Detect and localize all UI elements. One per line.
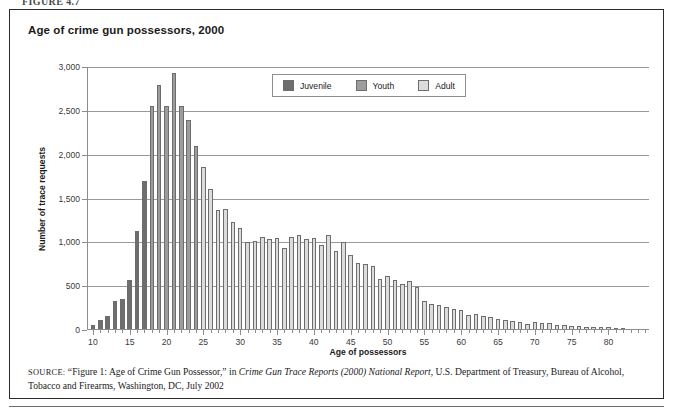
x-tick-mark-minor <box>270 330 271 333</box>
x-tick-mark-minor <box>410 330 411 333</box>
x-tick-mark-major <box>498 330 499 335</box>
x-tick-mark-minor <box>446 330 447 333</box>
x-tick-label: 60 <box>456 337 466 347</box>
x-tick-mark-minor <box>513 330 514 333</box>
x-tick-label: 50 <box>383 337 393 347</box>
x-tick-mark-minor <box>380 330 381 333</box>
x-tick-mark-minor <box>491 330 492 333</box>
y-tick-label: 3,000 <box>58 62 80 72</box>
x-tick-mark-minor <box>557 330 558 333</box>
y-axis-title: Number of trace requests <box>36 67 48 330</box>
x-tick-mark-major <box>351 330 352 335</box>
x-tick-mark-minor <box>469 330 470 333</box>
y-tick-mark <box>82 286 87 287</box>
x-tick-mark-minor <box>365 330 366 333</box>
y-tick-mark <box>82 111 87 112</box>
x-tick-mark-minor <box>248 330 249 333</box>
x-tick-mark-minor <box>373 330 374 333</box>
y-tick-label: 500 <box>66 281 80 291</box>
y-tick-label: 2,500 <box>58 106 80 116</box>
legend-item: Youth <box>356 80 395 91</box>
x-tick-mark-minor <box>196 330 197 333</box>
x-tick-mark-minor <box>137 330 138 333</box>
x-tick-mark-minor <box>454 330 455 333</box>
x-tick-mark-minor <box>542 330 543 333</box>
x-tick-mark-minor <box>233 330 234 333</box>
x-tick-label: 35 <box>272 337 282 347</box>
y-tick-mark <box>82 155 87 156</box>
x-tick-mark-minor <box>505 330 506 333</box>
x-tick-mark-major <box>167 330 168 335</box>
x-tick-mark-major <box>608 330 609 335</box>
source-label: SOURCE: <box>28 368 65 377</box>
x-tick-mark-minor <box>218 330 219 333</box>
y-axis-line <box>87 67 88 330</box>
x-tick-mark-minor <box>483 330 484 333</box>
legend-swatch-icon <box>283 80 294 91</box>
y-tick-label: 2,000 <box>58 150 80 160</box>
x-tick-label: 10 <box>88 337 98 347</box>
figure-box: Age of crime gun possessors, 2000 Number… <box>9 9 664 399</box>
x-tick-mark-minor <box>527 330 528 333</box>
x-tick-label: 70 <box>530 337 540 347</box>
x-tick-mark-major <box>388 330 389 335</box>
x-tick-mark-minor <box>550 330 551 333</box>
x-tick-mark-minor <box>211 330 212 333</box>
legend-label: Juvenile <box>300 81 332 91</box>
x-tick-mark-minor <box>321 330 322 333</box>
x-tick-label: 45 <box>346 337 356 347</box>
x-tick-mark-minor <box>520 330 521 333</box>
x-tick-mark-minor <box>586 330 587 333</box>
x-tick-mark-minor <box>299 330 300 333</box>
x-tick-mark-minor <box>358 330 359 333</box>
x-tick-label: 55 <box>420 337 430 347</box>
x-tick-label: 15 <box>125 337 135 347</box>
x-tick-mark-minor <box>292 330 293 333</box>
figure-caption-strip: FIGURE 4.7 <box>22 0 80 6</box>
x-tick-mark-minor <box>122 330 123 333</box>
x-tick-mark-minor <box>564 330 565 333</box>
x-tick-mark-minor <box>336 330 337 333</box>
x-tick-mark-minor <box>476 330 477 333</box>
legend-label: Youth <box>373 81 395 91</box>
plot-area: 05001,0001,5002,0002,5003,000 1015202530… <box>87 67 649 330</box>
x-tick-mark-minor <box>159 330 160 333</box>
x-tick-mark-minor <box>402 330 403 333</box>
y-tick-label: 1,500 <box>58 194 80 204</box>
x-tick-mark-major <box>93 330 94 335</box>
x-tick-mark-minor <box>623 330 624 333</box>
x-tick-mark-major <box>461 330 462 335</box>
source-text-italic: Crime Gun Trace Reports (2000) National … <box>239 366 431 377</box>
y-tick-mark <box>82 242 87 243</box>
x-tick-mark-minor <box>189 330 190 333</box>
x-tick-label: 80 <box>604 337 614 347</box>
x-tick-mark-minor <box>262 330 263 333</box>
x-tick-mark-major <box>535 330 536 335</box>
x-axis-title: Age of possessors <box>87 347 649 357</box>
x-tick-mark-minor <box>181 330 182 333</box>
x-tick-label: 20 <box>162 337 172 347</box>
x-tick-mark-minor <box>616 330 617 333</box>
x-tick-mark-minor <box>343 330 344 333</box>
legend-item: Adult <box>418 80 455 91</box>
legend-item: Juvenile <box>283 80 332 91</box>
x-tick-label: 30 <box>235 337 245 347</box>
x-tick-mark-major <box>424 330 425 335</box>
legend-swatch-icon <box>356 80 367 91</box>
x-tick-mark-major <box>314 330 315 335</box>
x-tick-label: 65 <box>493 337 503 347</box>
source-note: SOURCE: “Figure 1: Age of Crime Gun Poss… <box>28 365 649 392</box>
x-tick-mark-minor <box>174 330 175 333</box>
x-tick-mark-minor <box>432 330 433 333</box>
x-tick-mark-minor <box>594 330 595 333</box>
x-tick-mark-minor <box>255 330 256 333</box>
axis-layer <box>87 67 649 330</box>
y-tick-label: 0 <box>75 325 80 335</box>
y-axis-title-text: Number of trace requests <box>37 146 47 250</box>
legend-label: Adult <box>435 81 455 91</box>
x-tick-mark-minor <box>579 330 580 333</box>
y-tick-mark <box>82 330 87 331</box>
source-text-part1: “Figure 1: Age of Crime Gun Possessor,” … <box>65 366 238 377</box>
chart-title: Age of crime gun possessors, 2000 <box>28 24 224 36</box>
x-tick-label: 75 <box>567 337 577 347</box>
